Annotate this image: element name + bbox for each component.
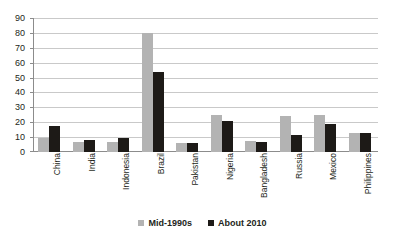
bar-mexico-about-2010 <box>325 124 336 152</box>
bar-group <box>102 18 137 152</box>
bar-brazil-about-2010 <box>153 72 164 152</box>
bar-group <box>206 18 241 152</box>
x-tick-label-text: Russia <box>295 152 304 213</box>
bar-china-mid-1990s <box>38 138 49 152</box>
x-tick-label-russia: Russia <box>295 153 304 213</box>
bar-nigeria-mid-1990s <box>211 115 222 152</box>
bar-pakistan-mid-1990s <box>176 143 187 152</box>
x-tick-label-indonesia: Indonesia <box>122 153 131 213</box>
legend-swatch-icon <box>208 220 214 226</box>
x-tick-label-pakistan: Pakistan <box>191 153 200 213</box>
y-tick-label: 10 <box>15 133 25 142</box>
legend-swatch-icon <box>138 220 144 226</box>
bar-russia-about-2010 <box>291 135 302 152</box>
bar-group <box>240 18 275 152</box>
bar-group <box>68 18 103 152</box>
x-tick-label-text: Indonesia <box>122 152 131 213</box>
x-tick-label-text: Philippines <box>364 152 373 213</box>
y-tick-label: 50 <box>15 74 25 83</box>
x-tick-label-india: India <box>88 153 97 213</box>
x-tick-label-bangladesh: Bangladesh <box>260 153 269 213</box>
x-tick-label-text: Nigeria <box>226 152 235 213</box>
x-tick-label-text: Bangladesh <box>260 152 269 213</box>
bar-group <box>344 18 379 152</box>
y-tick-label: 30 <box>15 103 25 112</box>
bar-china-about-2010 <box>49 126 60 152</box>
x-tick-label-text: Mexico <box>329 152 338 213</box>
bar-group <box>309 18 344 152</box>
x-tick-label-text: Pakistan <box>191 152 200 213</box>
y-tick-label: 40 <box>15 88 25 97</box>
bar-group <box>275 18 310 152</box>
x-axis-tick-labels: ChinaIndiaIndonesiaBrazilPakistanNigeria… <box>33 153 378 205</box>
bar-mexico-mid-1990s <box>314 115 325 152</box>
bar-group <box>137 18 172 152</box>
x-tick-label-mexico: Mexico <box>329 153 338 213</box>
bar-philippines-about-2010 <box>360 133 371 152</box>
y-axis-tick-labels: 90 80 70 60 50 40 30 20 10 0 <box>0 18 29 152</box>
x-tick-label-text: Brazil <box>157 152 166 213</box>
bar-group <box>171 18 206 152</box>
bar-india-about-2010 <box>84 140 95 152</box>
legend-label: Mid-1990s <box>148 218 192 228</box>
legend-label: About 2010 <box>218 218 267 228</box>
x-tick-label-text: China <box>53 152 62 213</box>
bar-indonesia-about-2010 <box>118 138 129 152</box>
y-tick-label: 60 <box>15 59 25 68</box>
x-tick-label-text: India <box>88 152 97 213</box>
y-tick-label: 0 <box>20 148 25 157</box>
legend-item-mid-1990s: Mid-1990s <box>138 218 192 228</box>
bar-series-layer <box>33 18 378 152</box>
chart-legend: Mid-1990s About 2010 <box>0 216 405 230</box>
bar-philippines-mid-1990s <box>349 133 360 152</box>
bar-indonesia-mid-1990s <box>107 142 118 152</box>
x-tick-label-philippines: Philippines <box>364 153 373 213</box>
y-tick-label: 80 <box>15 29 25 38</box>
x-tick-label-china: China <box>53 153 62 213</box>
legend-item-about-2010: About 2010 <box>208 218 267 228</box>
y-tick-label: 90 <box>15 14 25 23</box>
bar-bangladesh-about-2010 <box>256 142 267 152</box>
bar-india-mid-1990s <box>73 142 84 152</box>
bar-bangladesh-mid-1990s <box>245 141 256 152</box>
y-tick-label: 20 <box>15 118 25 127</box>
x-tick-label-nigeria: Nigeria <box>226 153 235 213</box>
bar-chart: 90 80 70 60 50 40 30 20 10 0 Chin <box>0 0 405 234</box>
bar-pakistan-about-2010 <box>187 143 198 152</box>
bar-group <box>33 18 68 152</box>
bar-russia-mid-1990s <box>280 116 291 152</box>
x-tick-label-brazil: Brazil <box>157 153 166 213</box>
bar-nigeria-about-2010 <box>222 121 233 152</box>
bar-brazil-mid-1990s <box>142 33 153 152</box>
y-tick-label: 70 <box>15 44 25 53</box>
